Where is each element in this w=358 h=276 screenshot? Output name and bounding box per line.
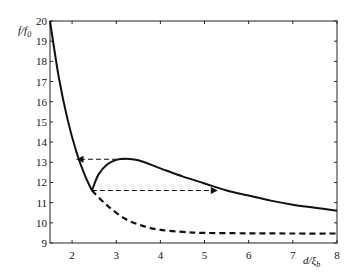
x-axis-label: d/ξb — [303, 254, 320, 269]
y-axis-label: f/f0 — [18, 24, 31, 39]
dashed-lower-branch-line — [92, 191, 337, 234]
solid-branch-right-line — [92, 159, 337, 211]
y-tick-label: 16 — [36, 96, 48, 108]
y-tick-label: 13 — [36, 156, 48, 168]
chart: 234567891011121314151617181920 f/f0 d/ξb — [0, 0, 358, 276]
y-tick-label: 11 — [36, 197, 47, 209]
y-tick-label: 19 — [36, 35, 48, 47]
x-tick-label: 7 — [290, 249, 296, 261]
x-tick-label: 8 — [334, 249, 340, 261]
y-tick-label: 10 — [36, 217, 48, 229]
x-tick-label: 6 — [246, 249, 252, 261]
axis-ticks: 234567891011121314151617181920 — [36, 15, 340, 261]
y-tick-label: 20 — [36, 15, 48, 27]
y-tick-label: 9 — [42, 237, 48, 249]
x-tick-label: 3 — [113, 249, 119, 261]
x-tick-label: 5 — [202, 249, 208, 261]
y-tick-label: 17 — [36, 76, 48, 88]
y-tick-label: 15 — [36, 116, 48, 128]
plot-frame — [50, 21, 337, 243]
y-tick-label: 18 — [36, 55, 48, 67]
y-tick-label: 14 — [36, 136, 48, 148]
solid-branch-left-line — [50, 21, 92, 191]
plot-border — [50, 21, 337, 243]
x-tick-label: 2 — [69, 249, 75, 261]
x-tick-label: 4 — [158, 249, 164, 261]
data-series — [50, 21, 337, 234]
y-tick-label: 12 — [36, 176, 47, 188]
